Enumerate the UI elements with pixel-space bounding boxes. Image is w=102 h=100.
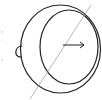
edge-mark (1, 31, 3, 33)
edge-mark (1, 59, 3, 61)
outer-circle (21, 5, 101, 93)
edge-marks (1, 31, 3, 61)
edge-mark (2, 39, 3, 40)
axis-line (30, 5, 91, 99)
diagram-canvas (0, 0, 102, 100)
inner-circle (40, 10, 98, 84)
